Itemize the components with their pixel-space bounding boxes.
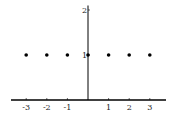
y-tick-label: 2 [82,6,87,15]
x-tick-label: 1 [106,103,111,112]
x-tick-label: -1 [64,103,72,112]
x-tick-label: -3 [22,103,30,112]
data-point [66,53,70,57]
x-tick-label: 3 [147,103,152,112]
x-tick-label: -2 [43,103,51,112]
data-point [86,53,90,57]
data-point [127,53,131,57]
data-point [148,53,152,57]
axes: -3-2-112312 [11,6,166,113]
y-tick-label: 1 [82,51,87,60]
data-point [24,53,28,57]
data-point [45,53,49,57]
data-point [107,53,111,57]
data-points [24,53,151,57]
x-tick-label: 2 [127,103,132,112]
scatter-chart: -3-2-112312 [0,0,174,119]
